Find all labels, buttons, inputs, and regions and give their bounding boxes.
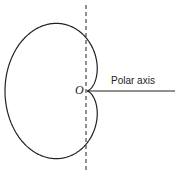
polar-axis-label: Polar axis — [111, 75, 155, 86]
origin-label: O — [75, 83, 84, 98]
cardioid-diagram: O Polar axis — [0, 0, 183, 189]
diagram-graphic — [0, 0, 183, 189]
